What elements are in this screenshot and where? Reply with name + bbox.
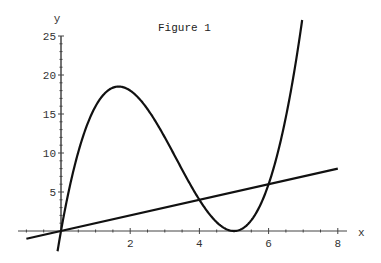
cubic-curve bbox=[58, 20, 303, 251]
x-tick-label: 2 bbox=[127, 238, 134, 250]
y-tick-label: 10 bbox=[43, 148, 56, 160]
linear-line bbox=[26, 169, 337, 239]
y-tick-label: 25 bbox=[43, 31, 56, 43]
data-series bbox=[26, 20, 337, 251]
x-tick-label: 8 bbox=[334, 238, 341, 250]
y-tick-label: 15 bbox=[43, 109, 56, 121]
x-axis-label: x bbox=[358, 227, 365, 239]
x-tick-label: 6 bbox=[265, 238, 272, 250]
y-axis-label: y bbox=[54, 13, 61, 25]
y-tick-label: 5 bbox=[49, 187, 56, 199]
y-tick-label: 20 bbox=[43, 70, 56, 82]
chart-title: Figure 1 bbox=[158, 22, 211, 34]
x-tick-label: 4 bbox=[196, 238, 203, 250]
chart-plot-area: Figure 1 y x 2468510152025 bbox=[0, 0, 381, 263]
